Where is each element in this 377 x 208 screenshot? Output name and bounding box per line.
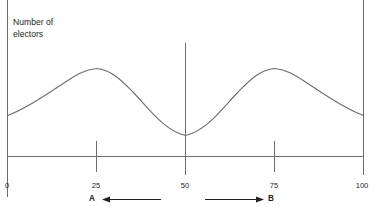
chart-figure: Number of electors 0 25 50 75 100 A B (0, 0, 377, 208)
arrow-left-head (102, 197, 110, 203)
x-tick-label-100: 100 (356, 182, 369, 190)
arrow-right-to-b (205, 197, 264, 203)
y-axis-title-line1: Number of (13, 18, 53, 27)
x-tick-label-0: 0 (5, 182, 9, 190)
arrow-left-to-a (102, 197, 161, 203)
y-axis-title-line2: electors (13, 30, 43, 39)
x-tick-label-25: 25 (92, 182, 100, 190)
arrow-right-head (256, 197, 264, 203)
group-label-a: A (89, 195, 95, 203)
x-tick-label-75: 75 (270, 182, 278, 190)
distribution-chart (0, 0, 377, 208)
group-label-b: B (268, 195, 274, 203)
x-tick-label-50: 50 (181, 182, 189, 190)
